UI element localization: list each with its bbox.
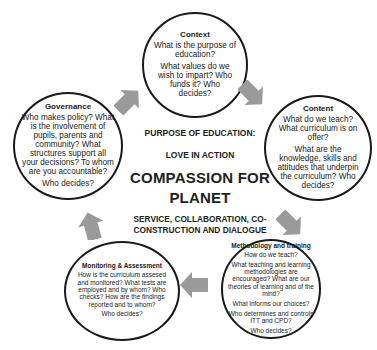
monitoring-question: Who decides?	[101, 310, 142, 317]
center-tagline-line2: CONSTRUCTION AND DIALOGUE	[120, 225, 280, 236]
center-main-line2: PLANET	[120, 188, 280, 208]
governance-question: Who makes policy? What is the involvemen…	[21, 113, 115, 176]
arrow-down-right-icon	[238, 80, 268, 110]
monitoring-title: Monitoring & Assessment	[82, 262, 162, 270]
methodology-question: What teaching and learning methodologies…	[227, 261, 315, 297]
governance-node: Governance Who makes policy? What is the…	[13, 92, 123, 200]
methodology-question: How do we teach?	[244, 251, 297, 258]
monitoring-question: How is the curriculum assesed and monito…	[76, 271, 168, 307]
context-title: Context	[180, 30, 210, 39]
methodology-title: Methodology and training	[231, 242, 310, 250]
arrow-down-right-icon	[276, 210, 306, 240]
governance-question: Who decides?	[42, 179, 94, 188]
governance-title: Governance	[45, 102, 91, 111]
content-node: Content What do we teach? What curriculu…	[264, 95, 372, 201]
center-heading: PURPOSE OF EDUCATION:	[120, 128, 280, 138]
methodology-node: Methodology and training How do we teach…	[221, 239, 321, 339]
arrow-left-icon	[178, 270, 208, 300]
context-node: Context What is the purpose of education…	[142, 12, 248, 118]
content-question: What do we teach? What curriculum is on …	[274, 115, 362, 142]
methodology-question: Who decides?	[250, 327, 291, 334]
center-subheading: LOVE IN ACTION	[120, 150, 280, 160]
monitoring-node: Monitoring & Assessment How is the curri…	[64, 241, 180, 341]
center-main-line1: COMPASSION FOR	[120, 168, 280, 188]
content-title: Content	[303, 104, 333, 113]
context-question: What is the purpose of education?	[154, 41, 236, 59]
center-tagline-line1: SERVICE, COLLABORATION, CO-	[120, 214, 280, 225]
context-question: What values do we wish to impart? Who fu…	[154, 62, 236, 98]
methodology-question: What informs our choices?	[233, 300, 310, 307]
methodology-question: Who determines and controls ITT and CPD?	[227, 310, 315, 325]
arrow-up-right-icon	[114, 85, 144, 115]
arrow-up-icon	[76, 210, 106, 240]
content-question: What are the knowledge, skills and attit…	[274, 145, 362, 190]
center-text: PURPOSE OF EDUCATION: LOVE IN ACTION COM…	[120, 128, 280, 236]
